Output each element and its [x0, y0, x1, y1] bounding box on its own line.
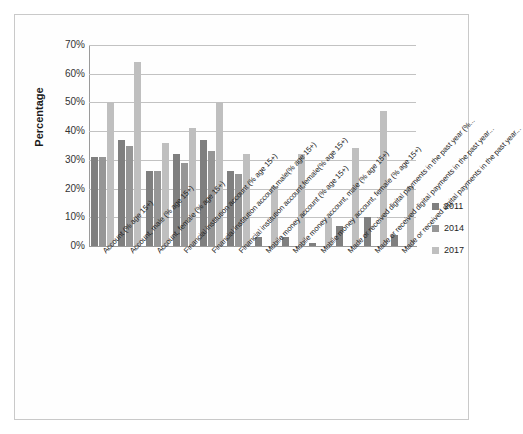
legend-label: 2011 — [444, 201, 463, 211]
x-axis-labels: Account (% age 15+)Account, male (% age … — [89, 249, 419, 419]
legend-item-2017[interactable]: 2017 — [432, 245, 478, 255]
y-tick-label: 60% — [39, 68, 85, 79]
y-axis-ticks: 70%60%50%40%30%20%10%0% — [35, 45, 85, 246]
bar-2014 — [154, 171, 161, 246]
bar-2011 — [91, 157, 98, 246]
chart-legend: 201120142017 — [432, 201, 478, 267]
bar-2017 — [107, 102, 114, 246]
bar-2014 — [99, 157, 106, 246]
legend-item-2011[interactable]: 2011 — [432, 201, 478, 211]
chart-frame: Percentage 70%60%50%40%30%20%10%0% Accou… — [14, 14, 469, 420]
y-tick-label: 40% — [39, 125, 85, 136]
y-tick-label: 50% — [39, 96, 85, 107]
y-tick-label: 20% — [39, 183, 85, 194]
legend-swatch-icon — [432, 203, 439, 210]
y-tick-label: 10% — [39, 211, 85, 222]
bar-2017 — [162, 143, 169, 246]
bar-2017 — [352, 148, 359, 246]
legend-label: 2017 — [444, 245, 464, 255]
y-tick-label: 0% — [39, 240, 85, 251]
bar-2017 — [298, 154, 305, 246]
bar-2011 — [309, 243, 316, 246]
legend-swatch-icon — [432, 225, 439, 232]
bar-2017 — [243, 154, 250, 246]
y-tick-label: 70% — [39, 39, 85, 50]
y-tick-label: 30% — [39, 154, 85, 165]
legend-item-2014[interactable]: 2014 — [432, 223, 478, 233]
legend-swatch-icon — [432, 247, 439, 254]
bar-group — [89, 45, 116, 246]
legend-label: 2014 — [444, 223, 464, 233]
